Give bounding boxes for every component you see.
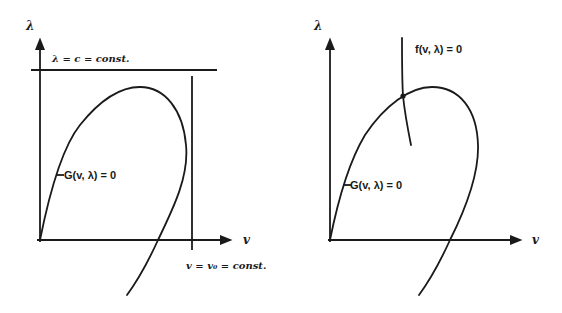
right-panel: λ v G(v, λ) = 0 f(v, λ) = 0 [313,19,540,295]
constraint-curve-label: f(v, λ) = 0 [415,43,462,55]
left-solution-curve [40,87,186,295]
left-panel: λ v λ = c = const. v = v₀ = const. G(v, … [25,19,266,295]
lambda-constant-label: λ = c = const. [51,53,130,64]
right-curve-label: G(v, λ) = 0 [350,179,402,191]
right-solution-curve [330,87,478,295]
v-constant-label: v = v₀ = const. [186,260,266,271]
right-y-axis-label: λ [313,19,322,33]
constraint-curve [402,38,411,145]
left-y-axis-label: λ [25,19,34,33]
intersection-point [400,93,405,98]
diagram-canvas: λ v λ = c = const. v = v₀ = const. G(v, … [0,0,562,313]
right-x-axis-label: v [532,233,540,247]
left-x-axis-label: v [243,233,251,247]
left-curve-label: G(v, λ) = 0 [64,169,116,181]
